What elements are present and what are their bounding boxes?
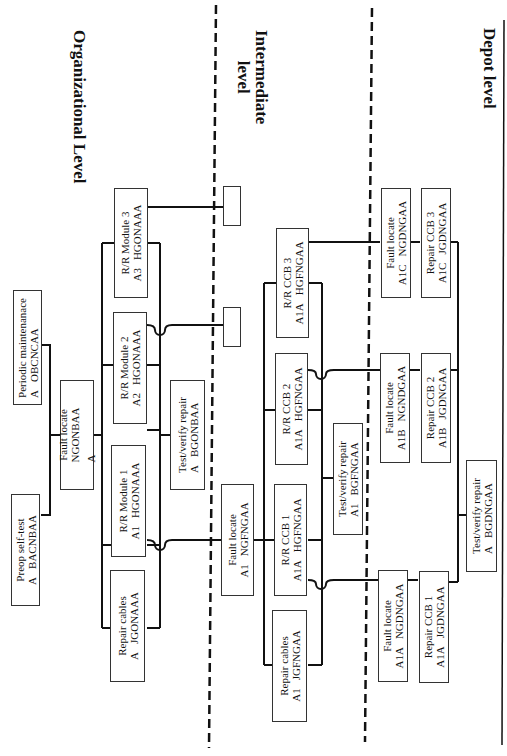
intermediate-title-line1: Intermediate bbox=[252, 30, 270, 124]
box-label: Periodic maintenanace bbox=[16, 298, 28, 398]
depot-repair-ccb-2-box[interactable]: Repair CCB 2A1BJGDNGAA bbox=[421, 353, 451, 463]
intermediate-level-title: Intermediate level bbox=[234, 30, 270, 124]
int-rr-ccb-1-box[interactable]: R/R CCB 1A1AHGFNGAA bbox=[274, 484, 307, 596]
box-label: Fault locate bbox=[384, 201, 396, 285]
box-code: JGDNGAA bbox=[436, 203, 448, 255]
box-prefix: A1A bbox=[291, 560, 303, 581]
org-repair-cables-box[interactable]: Repair cablesAJGONAAA bbox=[110, 570, 145, 682]
box-prefix: A1B bbox=[395, 429, 407, 450]
box-code: JGONAAA bbox=[128, 592, 140, 644]
box-code: NGNDGAA bbox=[395, 366, 407, 422]
box-label: R/R CCB 1 bbox=[279, 498, 291, 581]
box-code: JGDNGAA bbox=[434, 586, 446, 638]
box-code: NGDNGAA bbox=[393, 584, 405, 640]
depot-repair-ccb-1-box[interactable]: Repair CCB 1A1AJGDNGAA bbox=[419, 571, 449, 683]
box-label: R/R Module 2 bbox=[118, 329, 130, 406]
box-prefix: A1A bbox=[393, 647, 405, 668]
int-placeholder-box-1 bbox=[223, 186, 241, 226]
box-prefix: A1 bbox=[129, 526, 141, 539]
box-code: JGFNGAA bbox=[290, 630, 302, 680]
box-code: OBCNCAA bbox=[28, 328, 40, 382]
box-prefix: A1 bbox=[290, 688, 302, 701]
box-prefix: A1 bbox=[238, 564, 250, 577]
int-test-verify-repair-box[interactable]: Test/verify repairA1BGFNGAA bbox=[333, 423, 363, 535]
box-label: R/R CCB 3 bbox=[281, 241, 293, 324]
box-code: JGDNGAA bbox=[436, 368, 448, 420]
box-label: Fault locate bbox=[57, 408, 69, 463]
box-label: Fault locate bbox=[226, 502, 238, 577]
box-prefix: A1A bbox=[293, 303, 305, 324]
box-label: R/R Module 3 bbox=[119, 204, 131, 281]
box-label: Test/verify repair bbox=[470, 478, 482, 554]
int-fault-locate-box[interactable]: Fault locateA1NGFNGAA bbox=[221, 484, 254, 596]
org-rr-module-2-box[interactable]: R/R Module 2A2HGONAAA bbox=[113, 312, 147, 424]
box-prefix: A bbox=[28, 389, 40, 397]
box-prefix: A3 bbox=[131, 268, 143, 281]
box-label: Repair cables bbox=[278, 630, 290, 702]
box-code: NGDNGAA bbox=[396, 201, 408, 257]
box-code: NGFNGAA bbox=[238, 502, 250, 556]
box-label: R/R CCB 2 bbox=[280, 367, 292, 450]
org-test-verify-repair-box[interactable]: Test/verify repairABGONBAA bbox=[170, 380, 205, 490]
box-label: Fault locate bbox=[381, 584, 393, 669]
box-prefix: A1 bbox=[348, 503, 360, 516]
box-label: Repair CCB 2 bbox=[424, 368, 436, 449]
box-code: HGONAAA bbox=[129, 462, 141, 518]
depot-level-title: Depot level bbox=[480, 28, 498, 109]
box-code: HGFNGAA bbox=[292, 367, 304, 421]
org-rr-module-3-box[interactable]: R/R Module 3A3HGONAAA bbox=[114, 188, 148, 298]
box-prefix: A bbox=[188, 465, 200, 473]
box-prefix: A1A bbox=[292, 429, 304, 450]
int-rr-ccb-3-box[interactable]: R/R CCB 3A1AHGFNGAA bbox=[276, 228, 309, 338]
organizational-level-title: Organizational Level bbox=[70, 30, 88, 183]
org-fault-locate-box[interactable]: Fault locateNGONBAAA bbox=[60, 380, 94, 490]
depot-repair-ccb-3-box[interactable]: Repair CCB 3A1CJGDNGAA bbox=[421, 188, 451, 298]
box-code: HGFNGAA bbox=[293, 241, 305, 295]
int-rr-ccb-2-box[interactable]: R/R CCB 2A1AHGFNGAA bbox=[275, 353, 308, 465]
depot-test-verify-repair-box[interactable]: Test/verify repairABGDNGAA bbox=[466, 460, 497, 572]
box-label: Fault locate bbox=[383, 366, 395, 450]
box-label: Repair CCB 1 bbox=[422, 586, 434, 667]
box-prefix: A1C bbox=[436, 263, 448, 284]
depot-fault-locate-a1c-box[interactable]: Fault locateA1CNGDNGAA bbox=[381, 188, 411, 298]
int-placeholder-box-2 bbox=[223, 307, 241, 347]
box-code: BGDNGAA bbox=[482, 483, 494, 538]
org-rr-module-1-box[interactable]: R/R Module 1A1HGONAAA bbox=[111, 445, 146, 557]
box-label: Test/verify repair bbox=[336, 441, 348, 517]
box-code: NGONBAA bbox=[69, 408, 81, 463]
org-preop-self-test-box[interactable]: Preop self-testABACNBAA bbox=[11, 494, 40, 606]
box-code: BACNBAA bbox=[26, 515, 38, 569]
depot-fault-locate-a1a-box[interactable]: Fault locateA1ANGDNGAA bbox=[378, 570, 408, 682]
box-code: HGFNGAA bbox=[291, 498, 303, 552]
box-prefix: A1C bbox=[396, 264, 408, 285]
box-prefix: A bbox=[26, 577, 38, 585]
box-prefix: A1A bbox=[434, 646, 446, 667]
box-label: Preop self-test bbox=[14, 515, 26, 585]
depot-fault-locate-a1b-box[interactable]: Fault locateA1BNGNDGAA bbox=[380, 353, 410, 463]
box-code: BGONBAA bbox=[188, 403, 200, 457]
box-code: HGONAAA bbox=[130, 329, 142, 385]
box-code: BGFNGAA bbox=[348, 442, 360, 495]
int-repair-cables-box[interactable]: Repair cablesA1JGFNGAA bbox=[272, 610, 307, 722]
box-label: Repair CCB 3 bbox=[424, 203, 436, 284]
box-prefix: A bbox=[85, 455, 97, 463]
box-label: Repair cables bbox=[116, 592, 128, 660]
box-prefix: A1B bbox=[436, 428, 448, 449]
org-periodic-maintenance-box[interactable]: Periodic maintenanaceAOBCNCAA bbox=[13, 290, 42, 405]
box-prefix: A bbox=[128, 652, 140, 660]
box-label: Test/verify repair bbox=[176, 397, 188, 473]
box-label: R/R Module 1 bbox=[117, 462, 129, 539]
intermediate-title-line2: level bbox=[234, 30, 252, 124]
box-prefix: A bbox=[482, 546, 494, 554]
box-code: HGONAAA bbox=[131, 204, 143, 260]
box-prefix: A2 bbox=[130, 393, 142, 406]
